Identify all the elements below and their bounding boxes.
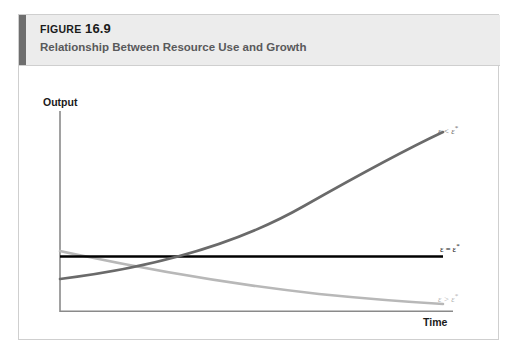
curve-epsilon-greater [60,251,443,304]
header-text-wrap: FIGURE 16.9 Relationship Between Resourc… [40,21,480,55]
figure-subtitle: Relationship Between Resource Use and Gr… [40,40,480,55]
figure-number-line: FIGURE 16.9 [40,21,480,37]
curve-label-epsilon-greater: ε > ε* [438,294,458,304]
figure-card: FIGURE 16.9 Relationship Between Resourc… [18,14,499,340]
curve-label-epsilon-equal-text: ε = ε [440,244,456,254]
curve-label-epsilon-less: ε < ε* [438,126,458,136]
curve-label-epsilon-greater-text: ε > ε [438,294,455,304]
figure-header: FIGURE 16.9 Relationship Between Resourc… [19,15,500,66]
curve-label-epsilon-equal: ε = ε* [440,244,460,254]
curve-label-epsilon-greater-star: * [455,292,459,300]
header-accent-bar [19,15,26,65]
curve-label-epsilon-less-star: * [455,124,459,132]
figure-number: 16.9 [85,21,111,36]
curve-label-epsilon-less-text: ε < ε [438,126,455,136]
curve-label-epsilon-equal-star: * [456,242,460,250]
y-axis-label: Output [43,96,77,108]
x-axis-label: Time [423,316,447,328]
figure-label-word: FIGURE [40,23,81,35]
plot-area: Output Time ε < ε* ε = ε* ε > ε* [19,66,498,339]
chart-svg [19,66,498,339]
